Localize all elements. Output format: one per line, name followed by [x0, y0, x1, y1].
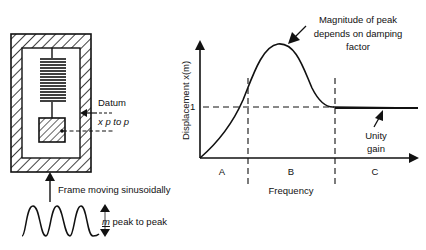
peak-annotation-line-3: factor: [346, 41, 370, 52]
amplitude-label: m peak to peak: [102, 216, 167, 227]
datum-label: Datum: [98, 97, 126, 108]
peak-annotation-line-2: depends on damping: [314, 28, 403, 39]
region-label-a: A: [219, 166, 225, 177]
spring-icon: [40, 48, 66, 118]
peak-annotation-line-1: Magnitude of peak: [319, 14, 397, 25]
seismic-mass: [39, 118, 65, 142]
y-tick-label-1: 1: [190, 101, 195, 112]
unity-annotation-line-2: gain: [367, 143, 385, 154]
unity-annotation-line-1: Unity: [365, 130, 387, 141]
sine-wave-icon: [22, 206, 99, 236]
amplitude-symbol: m: [102, 216, 110, 227]
x-axis-label: Frequency: [269, 185, 314, 196]
region-label-c: C: [372, 166, 379, 177]
frame-motion-label: Frame moving sinusoidally: [58, 184, 170, 195]
frame-input-arrow-icon: [45, 172, 55, 202]
region-label-b: B: [288, 166, 294, 177]
x-axis: [200, 153, 419, 163]
unity-gain-arrow-icon: [374, 110, 383, 127]
relative-motion-text: x p to p: [98, 116, 129, 127]
peak-annotation-arrow-icon: [288, 26, 306, 44]
amplitude-text: peak to peak: [110, 216, 167, 227]
frame: [11, 34, 91, 172]
y-axis: [195, 40, 205, 158]
relative-motion-label: x p to p: [98, 116, 129, 127]
